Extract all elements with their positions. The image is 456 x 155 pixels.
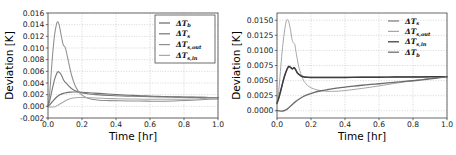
chart-legend: ΔTsΔTs,outΔTs,inΔTb: [388, 17, 431, 58]
chart-panel-right: 0.00.20.40.60.81.00.00000.00250.00500.00…: [228, 0, 456, 155]
legend-entry-label: ΔTb: [404, 48, 420, 58]
y-axis-title: Deviation [K]: [230, 31, 242, 100]
y-tick-label: 0.008: [23, 55, 45, 64]
x-tick-label: 1.0: [441, 120, 453, 129]
y-tick-label: 0.0075: [247, 61, 274, 70]
y-tick-label: 0.016: [23, 9, 45, 18]
x-tick-label: 0.2: [76, 120, 88, 129]
y-tick-label: -0.002: [20, 114, 45, 123]
x-tick-label: 0.8: [407, 120, 419, 129]
chart-legend: ΔTbΔTsΔTs,outΔTs,in: [155, 15, 215, 63]
x-tick-label: 0.6: [373, 120, 385, 129]
plot-frame: [277, 13, 447, 118]
y-tick-label: 0.0100: [247, 46, 274, 55]
y-tick-label: 0.004: [23, 79, 45, 88]
chart-svg-left: 0.00.20.40.60.81.0-0.0020.0000.0020.0040…: [0, 0, 228, 155]
x-tick-label: 1.0: [212, 120, 224, 129]
x-axis-title: Time [hr]: [108, 130, 157, 142]
y-tick-label: 0.014: [23, 20, 45, 29]
data-series-line: [277, 77, 447, 111]
legend-entry-label: ΔTs,in: [404, 37, 427, 47]
x-tick-label: 0.2: [305, 120, 317, 129]
figure-container: 0.00.20.40.60.81.0-0.0020.0000.0020.0040…: [0, 0, 456, 155]
legend-entry-label: ΔTs: [404, 17, 419, 27]
y-tick-label: 0.0025: [247, 91, 274, 100]
x-axis-title: Time [hr]: [337, 130, 386, 142]
y-tick-label: 0.002: [23, 90, 45, 99]
legend-entry-label: ΔTs,out: [404, 27, 431, 37]
chart-panel-left: 0.00.20.40.60.81.0-0.0020.0000.0020.0040…: [0, 0, 228, 155]
y-tick-label: 0.012: [23, 32, 45, 41]
x-tick-label: 0.4: [339, 120, 351, 129]
x-tick-label: 0.0: [271, 120, 283, 129]
x-tick-label: 0.8: [178, 120, 190, 129]
chart-svg-right: 0.00.20.40.60.81.00.00000.00250.00500.00…: [228, 0, 456, 155]
x-tick-label: 0.4: [110, 120, 122, 129]
y-tick-label: 0.006: [23, 67, 45, 76]
y-tick-label: 0.0125: [247, 31, 274, 40]
y-tick-label: 0.0000: [247, 106, 274, 115]
y-tick-label: 0.0050: [247, 76, 274, 85]
data-series-line: [48, 97, 218, 107]
y-tick-label: 0.010: [23, 44, 45, 53]
y-tick-label: 0.000: [23, 102, 45, 111]
x-tick-label: 0.6: [144, 120, 156, 129]
y-axis-title: Deviation [K]: [3, 31, 15, 100]
y-tick-label: 0.0150: [247, 16, 274, 25]
gridlines: [277, 13, 447, 118]
